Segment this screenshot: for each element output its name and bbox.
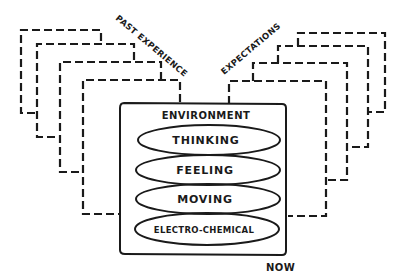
environment-label: ENVIRONMENT	[162, 110, 251, 121]
past-frame-4	[83, 80, 180, 214]
layer-label-electro-chemical: ELECTRO-CHEMICAL	[154, 225, 255, 235]
expectation-frames	[229, 33, 385, 216]
past-experience-frames	[21, 30, 180, 214]
layer-label-feeling: FEELING	[176, 164, 233, 177]
expectation-frame-4	[298, 33, 385, 112]
diagram-canvas: ENVIRONMENT THINKING FEELING MOVING ELEC…	[0, 0, 408, 279]
layer-label-moving: MOVING	[177, 193, 233, 206]
now-label: NOW	[266, 262, 295, 273]
layer-label-thinking: THINKING	[172, 134, 239, 147]
expectation-frame-3	[278, 46, 368, 147]
past-experience-label: PAST EXPERIENCE	[114, 13, 190, 79]
past-frame-3	[60, 62, 161, 172]
expectations-label: EXPECTATIONS	[219, 21, 283, 77]
